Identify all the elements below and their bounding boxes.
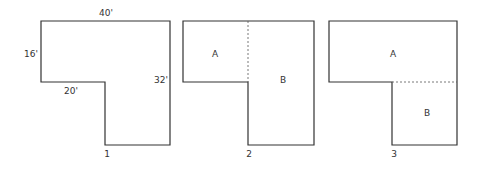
l-shape-3: [329, 21, 457, 145]
diagram-canvas: [0, 0, 482, 169]
caption-1: 1: [104, 149, 110, 159]
dim-inner-bottom: 20': [64, 86, 78, 96]
region-b-2: B: [280, 75, 286, 85]
dim-right: 32': [154, 75, 168, 85]
caption-2: 2: [246, 149, 252, 159]
region-a-2: A: [212, 49, 218, 59]
l-shape-2: [183, 21, 314, 145]
caption-3: 3: [391, 149, 397, 159]
dim-left: 16': [24, 49, 38, 59]
dim-top: 40': [99, 8, 113, 18]
region-a-3: A: [390, 49, 396, 59]
l-shape-1: [41, 21, 170, 145]
region-b-3: B: [424, 108, 430, 118]
